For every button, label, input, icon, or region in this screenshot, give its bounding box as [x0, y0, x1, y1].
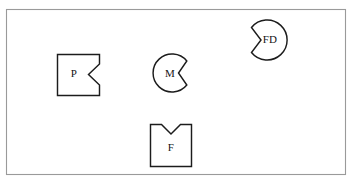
shape-fd-label: FD — [263, 33, 277, 45]
diagram-canvas: P M FD F — [0, 0, 352, 184]
shape-f-label: F — [168, 141, 174, 153]
shape-p-label: P — [71, 67, 77, 79]
shape-m-label: M — [165, 67, 175, 79]
shape-diagram: P M FD F — [0, 0, 352, 184]
